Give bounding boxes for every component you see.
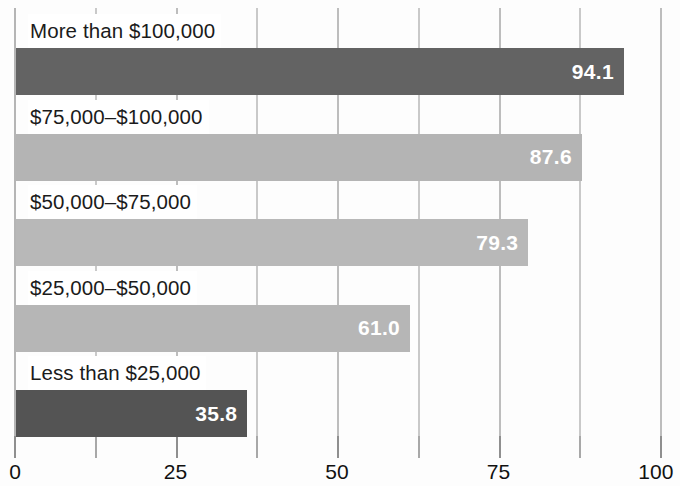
bar-value-label: 79.3 bbox=[476, 231, 518, 255]
bar-row: $75,000–$100,00087.6 bbox=[14, 100, 660, 186]
gridline-100 bbox=[660, 8, 662, 436]
x-tick-12.5 bbox=[95, 436, 97, 458]
bar-value-label: 61.0 bbox=[358, 316, 400, 340]
bar: 87.6 bbox=[16, 134, 582, 181]
bar-category-label: More than $100,000 bbox=[28, 14, 221, 48]
bar-value-label: 94.1 bbox=[572, 60, 614, 84]
bar-row: $25,000–$50,00061.0 bbox=[14, 271, 660, 357]
bar-category-label: $50,000–$75,000 bbox=[28, 185, 197, 219]
bar: 35.8 bbox=[16, 390, 247, 437]
x-tick-label: 75 bbox=[487, 460, 510, 484]
bar-row: More than $100,00094.1 bbox=[14, 14, 660, 100]
x-tick-37.5 bbox=[256, 436, 258, 458]
x-tick-87.5 bbox=[579, 436, 581, 458]
bar-category-label: Less than $25,000 bbox=[28, 356, 206, 390]
bar: 94.1 bbox=[16, 48, 624, 95]
bar-row: Less than $25,00035.8 bbox=[14, 356, 660, 442]
x-tick-label: 50 bbox=[325, 460, 348, 484]
x-tick-75 bbox=[499, 436, 501, 458]
x-tick-100 bbox=[660, 436, 662, 458]
x-axis: 0255075100 bbox=[14, 436, 660, 486]
x-tick-25 bbox=[176, 436, 178, 458]
bar-value-label: 35.8 bbox=[195, 402, 237, 426]
x-tick-label: 100 bbox=[638, 460, 673, 484]
bar: 61.0 bbox=[16, 305, 410, 352]
x-tick-62.5 bbox=[418, 436, 420, 458]
bar: 79.3 bbox=[16, 219, 528, 266]
plot-area: More than $100,00094.1$75,000–$100,00087… bbox=[14, 8, 660, 436]
bar-row: $50,000–$75,00079.3 bbox=[14, 185, 660, 271]
bar-chart: More than $100,00094.1$75,000–$100,00087… bbox=[0, 0, 680, 486]
bar-value-label: 87.6 bbox=[530, 145, 572, 169]
x-tick-label: 25 bbox=[164, 460, 187, 484]
x-tick-0 bbox=[14, 436, 16, 458]
x-tick-50 bbox=[337, 436, 339, 458]
bar-category-label: $25,000–$50,000 bbox=[28, 271, 197, 305]
x-tick-label: 0 bbox=[9, 460, 21, 484]
bar-category-label: $75,000–$100,000 bbox=[28, 100, 209, 134]
